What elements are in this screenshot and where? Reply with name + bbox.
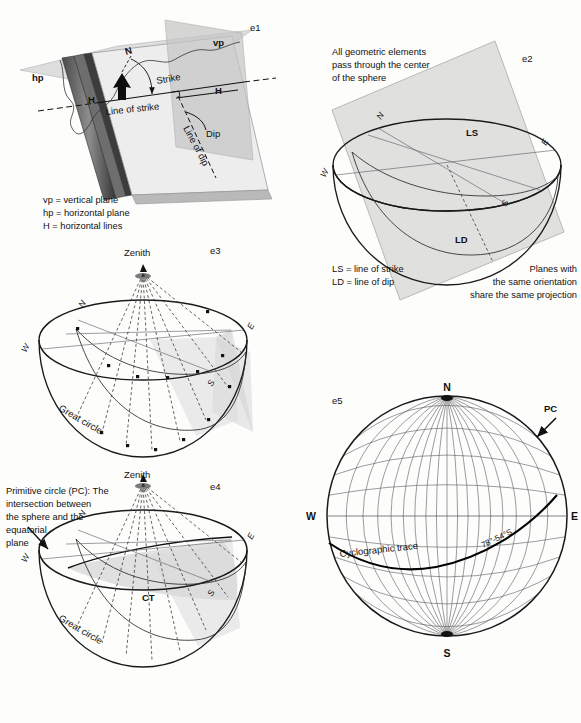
e3-compass-w: W	[19, 341, 32, 354]
e1-legend-line-1: vp = vertical plane	[43, 195, 118, 205]
e1-vp-label: vp	[213, 37, 224, 48]
e2-caption-top-3: of the sphere	[332, 73, 386, 83]
e2-panel-id: e2	[522, 53, 533, 64]
e1-h-label-right: H	[215, 85, 222, 96]
e1-panel-id: e1	[250, 22, 261, 33]
figure-canvas: e1 vp hp N Strike Line of strike Dip Lin…	[0, 0, 581, 723]
e3-zenith-label: Zenith	[124, 247, 150, 258]
e3-compass-n: N	[76, 298, 88, 309]
e4-compass-w: W	[19, 551, 32, 564]
e5-panel-id: e5	[332, 395, 343, 406]
e4-caption-1: Primitive circle (PC): The	[6, 486, 109, 496]
e1-hp-label: hp	[32, 72, 44, 83]
e5-compass-e: E	[571, 510, 578, 522]
panel-e2: e2 All geometric elements pass through t…	[318, 41, 577, 300]
e5-south-pole-mark	[441, 631, 453, 637]
e2-legend-line-2: LD = line of dip	[332, 277, 394, 287]
e3-zenith-point	[140, 264, 147, 272]
panel-e1: e1 vp hp N Strike Line of strike Dip Lin…	[20, 20, 276, 231]
e4-compass-e: E	[245, 531, 257, 541]
e2-compass-e: E	[539, 137, 551, 147]
panel-e5: e5 PC N S W E Cyclographic trace 78°-54°…	[306, 374, 578, 659]
e1-legend-line-3: H = horizontal lines	[43, 221, 123, 231]
e2-ld-label: LD	[455, 234, 468, 245]
panel-e4: e4 Zenith CT Great circle Primitive circ…	[6, 469, 257, 667]
e4-caption-4: equatorial	[6, 525, 47, 535]
e4-ct-label: CT	[142, 592, 155, 603]
e2-caption-top-1: All geometric elements	[332, 47, 426, 57]
e2-ls-label: LS	[466, 127, 478, 138]
e1-line-of-strike-extension-right	[244, 78, 276, 82]
e2-caption-br-1: Planes with	[529, 264, 577, 274]
e5-compass-w: W	[306, 510, 316, 522]
e2-compass-w: W	[318, 166, 331, 179]
e2-caption-top-2: pass through the center	[332, 60, 430, 70]
e1-legend-line-2: hp = horizontal plane	[43, 208, 130, 218]
e5-compass-s: S	[443, 647, 450, 659]
e5-stereonet	[327, 374, 567, 657]
e4-caption-2: intersection between	[6, 499, 91, 509]
e5-north-pole-mark	[441, 395, 453, 401]
e4-panel-id: e4	[210, 481, 221, 492]
e4-zenith-label: Zenith	[124, 469, 150, 480]
e2-legend-line-1: LS = line of strike	[332, 264, 404, 274]
panel-e3: e3 Zenith Great circle N E W S	[19, 245, 257, 457]
figure-svg: e1 vp hp N Strike Line of strike Dip Lin…	[0, 0, 581, 723]
e5-pc-arrow	[537, 418, 556, 437]
e2-caption-br-2: the same orientation	[493, 277, 577, 287]
e3-panel-id: e3	[210, 245, 221, 256]
e4-caption-5: plane	[6, 538, 29, 548]
e5-compass-n: N	[443, 381, 451, 393]
e3-compass-e: E	[245, 321, 257, 331]
e1-h-label-left: H	[88, 94, 95, 105]
e1-dip-label: Dip	[206, 128, 220, 139]
e4-caption-3: the sphere and the	[6, 512, 84, 522]
e5-pc-label: PC	[544, 403, 557, 414]
e1-vertical-plane-shape	[165, 20, 253, 160]
e5-orientation-label: 78°-54°S	[480, 527, 514, 550]
e5-trace-label: Cyclographic trace	[339, 540, 418, 559]
e2-caption-br-3: share the same projection	[470, 290, 577, 300]
